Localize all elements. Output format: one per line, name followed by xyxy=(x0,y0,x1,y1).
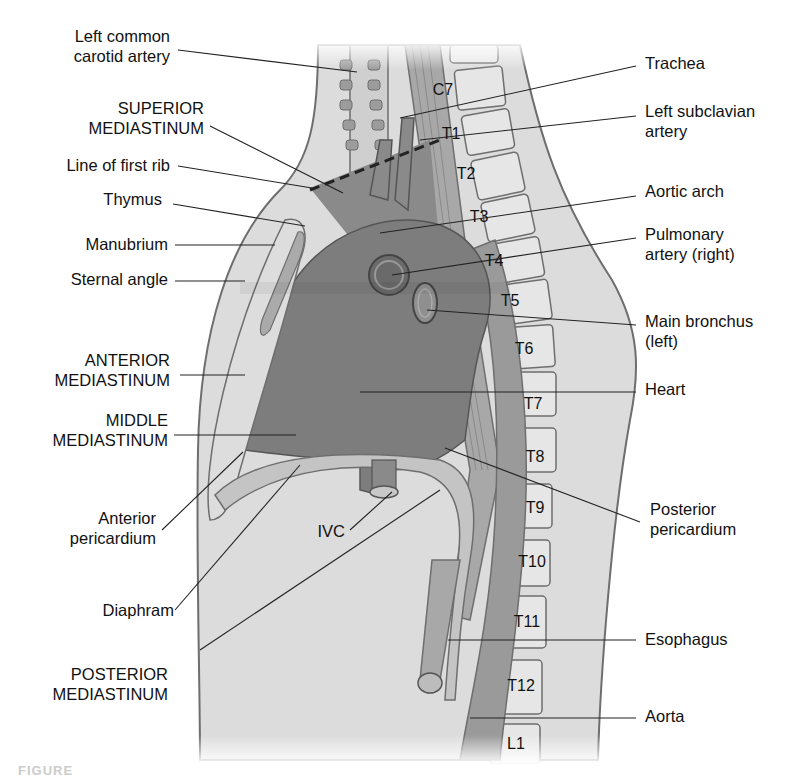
label-posterior-pericardium: Posterior pericardium xyxy=(650,499,736,539)
vertebra-t10: T10 xyxy=(518,553,546,571)
vertebra-l1: L1 xyxy=(507,735,525,753)
label-main-bronchus-left: Main bronchus (left) xyxy=(645,311,753,351)
label-posterior-mediastinum: POSTERIOR MEDIASTINUM xyxy=(53,664,169,704)
vertebra-t8: T8 xyxy=(526,448,545,466)
label-left-subclavian-artery: Left subclavian artery xyxy=(645,101,755,141)
mediastinum-diagram: Left common carotid artery SUPERIOR MEDI… xyxy=(0,0,796,775)
label-line-of-first-rib: Line of first rib xyxy=(66,155,170,175)
label-left-common-carotid-artery: Left common carotid artery xyxy=(74,26,170,66)
vertebra-t12: T12 xyxy=(507,677,535,695)
label-anterior-pericardium: Anterior pericardium xyxy=(70,508,156,548)
label-diaphram: Diaphram xyxy=(102,600,174,620)
label-aorta: Aorta xyxy=(645,706,684,726)
label-middle-mediastinum: MIDDLE MEDIASTINUM xyxy=(53,410,169,450)
label-anterior-mediastinum: ANTERIOR MEDIASTINUM xyxy=(55,350,171,390)
vertebra-t11: T11 xyxy=(514,613,540,631)
label-esophagus: Esophagus xyxy=(645,629,728,649)
label-manubrium: Manubrium xyxy=(85,234,168,254)
label-ivc: IVC xyxy=(317,521,345,541)
label-superior-mediastinum: SUPERIOR MEDIASTINUM xyxy=(89,98,205,138)
label-heart: Heart xyxy=(645,379,685,399)
vertebra-t6: T6 xyxy=(515,340,534,358)
label-aortic-arch: Aortic arch xyxy=(645,181,724,201)
label-sternal-angle: Sternal angle xyxy=(71,269,168,289)
vertebra-c7: C7 xyxy=(433,81,453,99)
vertebra-t9: T9 xyxy=(526,499,545,517)
vertebra-t4: T4 xyxy=(485,252,504,270)
vertebra-t2: T2 xyxy=(457,165,476,183)
label-thymus: Thymus xyxy=(103,189,162,209)
label-trachea: Trachea xyxy=(645,53,705,73)
vertebra-t7: T7 xyxy=(524,395,543,413)
vertebra-t3: T3 xyxy=(470,208,489,226)
vertebra-t1: T1 xyxy=(442,125,461,143)
figure-caption-fragment: FIGURE xyxy=(18,763,73,775)
vertebra-t5: T5 xyxy=(501,292,520,310)
label-pulmonary-artery-right: Pulmonary artery (right) xyxy=(645,224,735,264)
